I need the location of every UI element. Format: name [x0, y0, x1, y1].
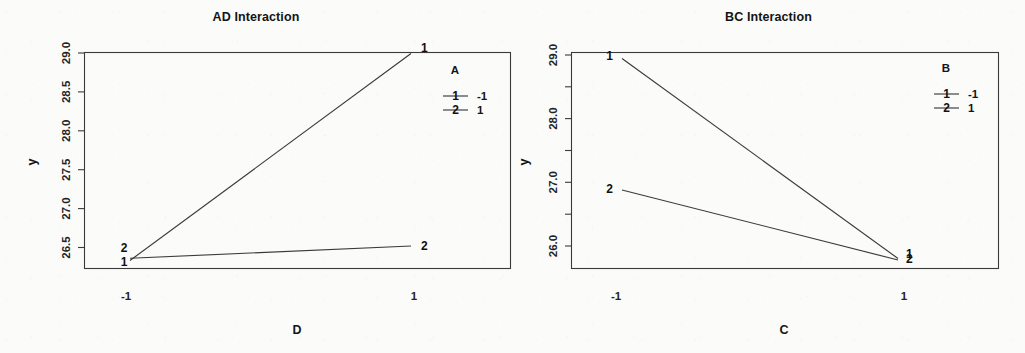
point-label-ad-left-upper: 2	[121, 241, 128, 255]
legend-bc: B 1 -1 2 1	[934, 62, 979, 115]
series-line-bc-1	[622, 59, 898, 259]
y-tick-label-bc-1: 27.0	[547, 171, 559, 193]
x-tick-label-bc-0: -1	[611, 290, 622, 302]
interaction-plots-figure: AD Interaction 26.5 27.0 27.5 28.0 28.5 …	[0, 0, 1025, 353]
series-line-bc-2	[622, 190, 898, 260]
point-label-ad-right-upper: 1	[421, 41, 428, 55]
plot-frame-ad	[85, 53, 511, 269]
legend-label-ad-0: -1	[477, 90, 488, 102]
y-tick-label-bc-2: 28.0	[547, 107, 559, 129]
series-line-ad-1	[130, 54, 411, 261]
legend-swatch-marker-bc-1: 2	[943, 101, 950, 115]
panel-ad-interaction: AD Interaction 26.5 27.0 27.5 28.0 28.5 …	[0, 0, 512, 353]
y-axis-title-bc: y	[517, 158, 531, 165]
y-axis-ticks-bc	[565, 55, 572, 246]
y-tick-label-ad-0: 26.5	[60, 236, 72, 259]
legend-swatch-marker-bc-0: 1	[943, 87, 950, 101]
point-label-ad-left-lower: 1	[121, 255, 128, 269]
y-tick-label-ad-1: 27.0	[60, 197, 72, 219]
legend-ad: A 1 -1 2 1	[443, 64, 488, 117]
point-label-bc-right-lower: 2	[906, 252, 913, 266]
plot-ad: 26.5 27.0 27.5 28.0 28.5 29.0 y -1 1 D 2…	[0, 0, 512, 353]
legend-swatch-marker-ad-1: 2	[452, 103, 459, 117]
y-tick-label-ad-3: 28.0	[60, 120, 72, 142]
legend-label-bc-0: -1	[968, 88, 979, 100]
legend-label-bc-1: 1	[968, 102, 975, 114]
y-tick-label-bc-0: 26.0	[547, 235, 559, 257]
x-tick-label-bc-1: 1	[901, 290, 908, 302]
x-tick-label-ad-1: 1	[411, 290, 418, 302]
x-axis-title-ad: D	[292, 323, 301, 337]
y-tick-label-bc-3: 29.0	[547, 44, 559, 66]
legend-title-ad: A	[451, 64, 459, 76]
point-label-bc-left-lower: 2	[606, 182, 613, 196]
x-tick-label-ad-0: -1	[121, 290, 132, 302]
y-tick-label-ad-5: 29.0	[60, 42, 72, 64]
legend-title-bc: B	[942, 62, 950, 74]
x-axis-title-bc: C	[779, 323, 788, 337]
y-tick-label-ad-2: 27.5	[60, 158, 72, 181]
legend-label-ad-1: 1	[477, 104, 484, 116]
plot-frame-bc	[572, 53, 999, 269]
panel-bc-interaction: BC Interaction 26.0 27.0 28.0 29.0 y	[512, 0, 1025, 353]
y-axis-ticks-ad	[78, 53, 85, 248]
legend-swatch-marker-ad-0: 1	[452, 89, 459, 103]
point-label-bc-left-upper: 1	[606, 49, 613, 63]
plot-bc: 26.0 27.0 28.0 29.0 y -1 1 C 1 2 1 2 B	[512, 0, 1025, 353]
series-line-ad-2	[130, 246, 411, 258]
y-axis-title-ad: y	[25, 158, 39, 165]
y-tick-label-ad-4: 28.5	[60, 80, 72, 103]
point-label-ad-right-lower: 2	[421, 239, 428, 253]
